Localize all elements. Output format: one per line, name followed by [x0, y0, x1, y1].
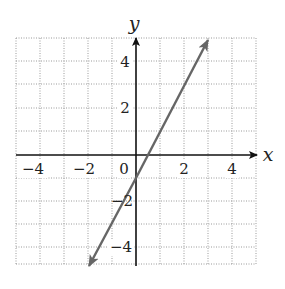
y-tick-2: 2	[120, 99, 130, 117]
y-tick-4: 4	[120, 53, 130, 71]
coordinate-plane: −4 −2 0 2 4 4 2 −2 −4 x y	[0, 0, 285, 289]
y-axis-label: y	[128, 12, 140, 34]
x-tick-4: 4	[227, 160, 237, 178]
x-tick-neg4: −4	[22, 160, 44, 178]
x-tick-neg2: −2	[73, 160, 95, 178]
y-tick-neg4: −4	[110, 238, 132, 256]
x-tick-labels: −4 −2 0 2 4	[18, 160, 239, 178]
x-tick-0: 0	[119, 160, 129, 178]
x-tick-2: 2	[179, 160, 189, 178]
x-axis-label: x	[263, 143, 274, 165]
y-tick-neg2: −2	[111, 192, 133, 210]
